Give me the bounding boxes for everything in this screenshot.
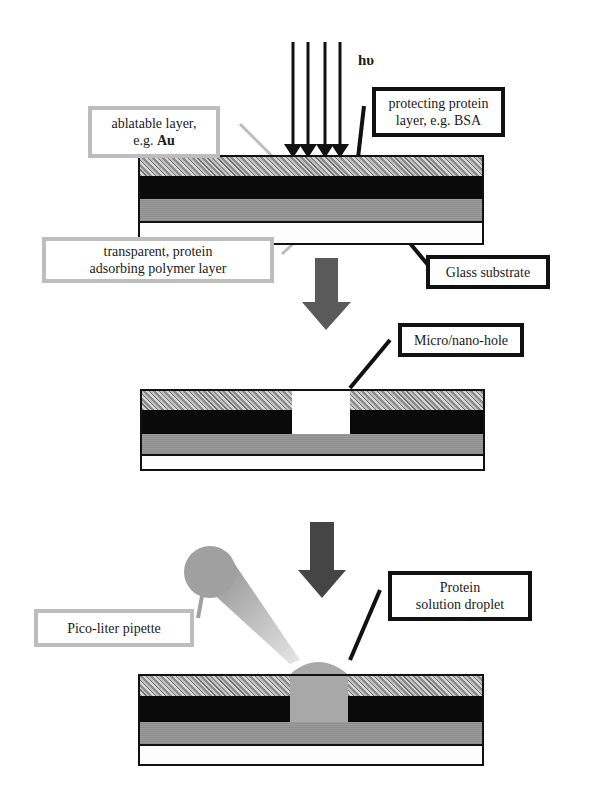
leader-protecting — [358, 106, 364, 158]
protecting-layer — [140, 157, 482, 176]
layer-stack-1 — [138, 155, 484, 245]
pipette-icon — [184, 546, 300, 664]
glass-layer — [140, 744, 482, 766]
leader-droplet — [350, 590, 380, 660]
light-beam-arrows-icon — [284, 42, 349, 158]
layer-stack-2 — [140, 389, 485, 471]
droplet-in-hole — [290, 674, 348, 722]
micro-nano-hole — [292, 389, 350, 434]
polymer-layer — [140, 722, 482, 744]
label-protecting-layer: protecting protein layer, e.g. BSA — [372, 87, 505, 137]
leader-hole — [350, 340, 390, 388]
label-glass-substrate: Glass substrate — [426, 255, 550, 289]
polymer-layer — [142, 434, 483, 454]
polymer-layer — [140, 199, 482, 221]
label-micro-nano-hole: Micro/nano-hole — [398, 323, 524, 357]
label-pico-liter-pipette: Pico-liter pipette — [34, 609, 194, 647]
label-transparent-layer: transparent, protein adsorbing polymer l… — [42, 237, 274, 283]
label-protein-solution-droplet: Protein solution droplet — [388, 571, 532, 621]
label-ablatable-layer: ablatable layer, e.g. Au — [88, 106, 220, 158]
process-arrow-2-icon — [298, 522, 346, 598]
glass-layer — [142, 454, 483, 471]
ablatable-layer — [140, 176, 482, 199]
light-label: hυ — [358, 52, 374, 69]
process-arrow-1-icon — [302, 258, 351, 330]
layer-stack-3 — [138, 674, 484, 766]
